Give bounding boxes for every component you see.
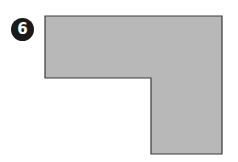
l-shape-figure — [0, 0, 238, 162]
l-shape-polygon — [45, 16, 222, 154]
